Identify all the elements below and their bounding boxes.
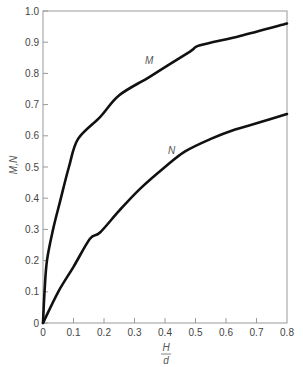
x-tick-label: 0.3	[128, 327, 142, 338]
y-tick-label: 0.7	[25, 99, 39, 110]
y-tick-label: 0.5	[25, 162, 39, 173]
x-tick-label: 0	[40, 327, 46, 338]
x-tick-label: 0.7	[250, 327, 264, 338]
y-tick-label: 0.4	[25, 193, 39, 204]
x-axis-ticks: 00.10.20.30.40.50.60.70.8	[40, 318, 294, 338]
curves	[43, 23, 287, 323]
y-tick-label: 0.6	[25, 130, 39, 141]
x-tick-label: 0.2	[97, 327, 111, 338]
y-tick-label: 0	[33, 318, 39, 329]
y-tick-label: 0.1	[25, 286, 39, 297]
curve-m	[43, 23, 287, 323]
x-axis-label: H d	[161, 342, 171, 366]
x-tick-label: 0.6	[219, 327, 233, 338]
curve-label-n: N	[168, 145, 176, 156]
x-axis-label-denominator: d	[163, 355, 169, 366]
x-axis-label-numerator: H	[162, 342, 170, 353]
y-axis-label: M,N	[8, 155, 19, 174]
x-tick-label: 0.5	[189, 327, 203, 338]
curve-n	[43, 114, 287, 323]
x-tick-label: 0.4	[158, 327, 172, 338]
x-tick-label: 0.8	[280, 327, 294, 338]
y-tick-label: 0.9	[25, 37, 39, 48]
x-tick-label: 0.1	[67, 327, 81, 338]
y-tick-label: 0.3	[25, 224, 39, 235]
y-tick-label: 0.2	[25, 255, 39, 266]
y-tick-label: 0.8	[25, 68, 39, 79]
curve-label-m: M	[145, 55, 154, 66]
y-tick-label: 1.0	[25, 6, 39, 17]
chart: 00.10.20.30.40.50.60.70.80.91.0 00.10.20…	[0, 0, 303, 367]
